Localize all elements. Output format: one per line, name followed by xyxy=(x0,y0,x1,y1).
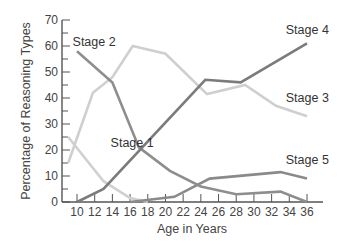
x-tick-label: 20 xyxy=(159,205,173,219)
series-label-stage-3: Stage 3 xyxy=(286,91,329,105)
series-label-stage-2: Stage 2 xyxy=(73,35,116,49)
x-tick-label: 30 xyxy=(247,205,261,219)
series-label-stage-5: Stage 5 xyxy=(286,153,329,167)
x-tick-label: 28 xyxy=(230,205,244,219)
series-labels: Stage 1Stage 2Stage 3Stage 4Stage 5 xyxy=(73,23,329,167)
y-tick-label: 10 xyxy=(45,169,59,183)
x-tick-label: 16 xyxy=(123,205,137,219)
y-tick-label: 50 xyxy=(45,65,59,79)
y-tick-label: 20 xyxy=(45,143,59,157)
x-tick-label: 22 xyxy=(176,205,190,219)
series-label-stage-4: Stage 4 xyxy=(286,23,329,37)
x-axis-title: Age in Years xyxy=(157,222,227,236)
series-line-stage-4 xyxy=(77,43,307,202)
x-tick-label: 32 xyxy=(265,205,279,219)
x-tick-label: 26 xyxy=(212,205,226,219)
chart: 0102030405060701012141618202224262830323… xyxy=(0,0,341,249)
x-tick-label: 14 xyxy=(106,205,120,219)
y-tick-label: 0 xyxy=(51,195,58,209)
y-tick-label: 60 xyxy=(45,39,59,53)
series-lines xyxy=(68,43,307,202)
x-tick-label: 18 xyxy=(141,205,155,219)
x-tick-label: 36 xyxy=(300,205,314,219)
x-tick-label: 24 xyxy=(194,205,208,219)
x-tick-label: 34 xyxy=(283,205,297,219)
y-tick-label: 70 xyxy=(45,13,59,27)
y-tick-label: 40 xyxy=(45,91,59,105)
y-axis-title: Percentage of Reasoning Types xyxy=(19,22,33,200)
series-label-stage-1: Stage 1 xyxy=(111,136,154,150)
y-tick-label: 30 xyxy=(45,117,59,131)
x-tick-label: 12 xyxy=(88,205,102,219)
x-tick-label: 10 xyxy=(70,205,84,219)
